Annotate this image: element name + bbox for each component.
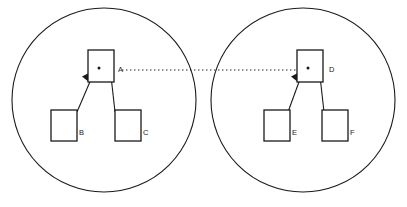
node-box-e[interactable] bbox=[264, 110, 290, 141]
node-label-d: D bbox=[329, 65, 335, 74]
node-box-d[interactable] bbox=[297, 50, 323, 82]
edge-e-to-d bbox=[288, 81, 300, 113]
edge-c-to-a bbox=[112, 81, 116, 113]
edge-f-to-d bbox=[321, 81, 325, 113]
node-label-f: F bbox=[350, 128, 355, 137]
group-left: A B C bbox=[12, 8, 196, 192]
edge-b-to-a bbox=[77, 81, 91, 113]
node-dot-d bbox=[307, 67, 310, 70]
group-right: D E F bbox=[211, 8, 395, 192]
node-box-a[interactable] bbox=[88, 50, 114, 82]
diagram-canvas: A B C D E F bbox=[0, 0, 407, 207]
node-label-e: E bbox=[292, 128, 297, 137]
node-box-b[interactable] bbox=[51, 110, 77, 141]
node-label-c: C bbox=[143, 128, 149, 137]
diagram-root: A B C D E F bbox=[0, 0, 407, 207]
node-box-c[interactable] bbox=[115, 110, 141, 141]
node-label-b: B bbox=[79, 128, 84, 137]
group-boundary-circle-left bbox=[12, 8, 196, 192]
node-dot-a bbox=[98, 67, 101, 70]
group-boundary-circle-right bbox=[211, 8, 395, 192]
node-box-f[interactable] bbox=[322, 110, 348, 141]
